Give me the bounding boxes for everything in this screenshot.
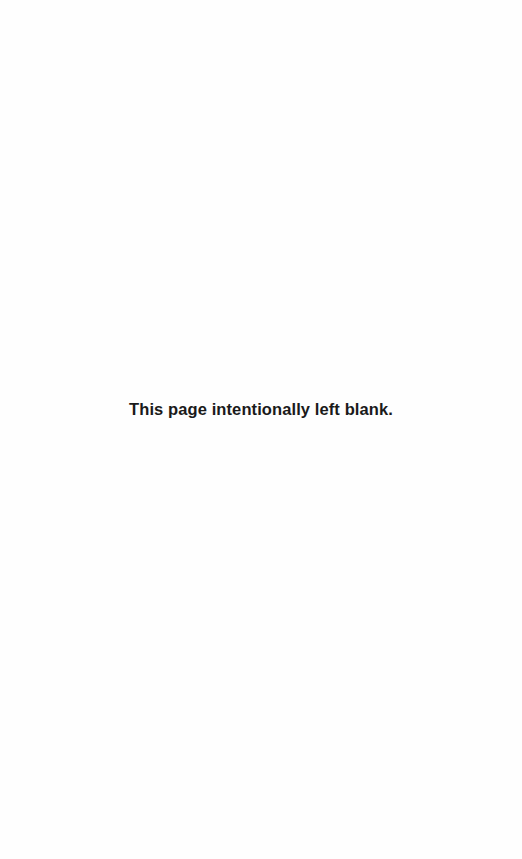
blank-page-notice: This page intentionally left blank. <box>0 400 522 419</box>
blank-page: This page intentionally left blank. <box>0 0 522 859</box>
